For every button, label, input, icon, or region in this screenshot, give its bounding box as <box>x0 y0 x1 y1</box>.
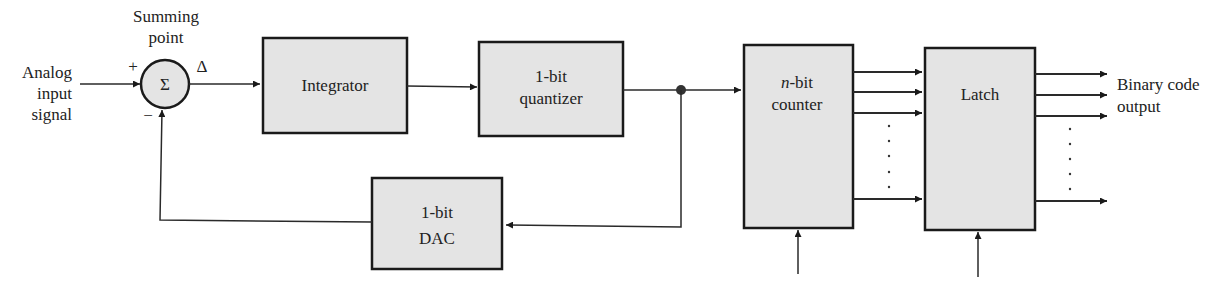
counter-bit-text: -bit <box>789 73 813 92</box>
input-label-line2: input <box>37 84 72 103</box>
summing-junction: Σ <box>141 60 189 108</box>
summing-point-label-line1: Summing <box>133 7 200 26</box>
integrator-to-quantizer-arrow <box>407 86 477 87</box>
plus-sign: + <box>128 57 138 76</box>
integrator-label: Integrator <box>301 76 368 95</box>
counter-to-latch-bus <box>853 72 922 199</box>
counter-label-line2: counter <box>772 95 823 114</box>
output-label-line1: Binary code <box>1117 75 1200 94</box>
input-label: Analog input signal <box>22 63 73 124</box>
counter-label-line1: n-bit <box>781 73 813 92</box>
summing-point-label-line2: point <box>149 28 184 47</box>
sigma-symbol: Σ <box>160 75 170 94</box>
input-label-line1: Analog <box>22 63 73 82</box>
latch-block: Latch <box>925 48 1035 230</box>
quantizer-label-line2: quantizer <box>519 89 583 108</box>
bus-ellipsis-dots <box>888 125 890 188</box>
output-ellipsis-dots <box>1069 128 1071 190</box>
dac-label-line2: DAC <box>419 229 455 248</box>
dac-label-line1: 1-bit <box>421 203 453 222</box>
dac-block: 1-bit DAC <box>372 178 502 269</box>
input-label-line3: signal <box>31 105 72 124</box>
quantizer-label-line1: 1-bit <box>535 67 567 86</box>
sigma-delta-adc-diagram: Analog input signal Summing point Σ + − … <box>0 0 1232 292</box>
minus-sign: − <box>143 106 153 125</box>
latch-label: Latch <box>961 85 1000 104</box>
integrator-block: Integrator <box>263 38 407 133</box>
quantizer-block: 1-bit quantizer <box>479 42 623 136</box>
output-label-line2: output <box>1117 97 1161 116</box>
delta-label: Δ <box>197 57 208 76</box>
counter-n-italic: n <box>781 73 790 92</box>
counter-block: n-bit counter <box>744 45 853 228</box>
output-bus <box>1035 74 1107 201</box>
